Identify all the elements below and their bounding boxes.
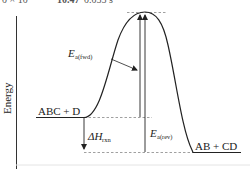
ea-reverse-label: E a(rev) <box>149 127 173 141</box>
svg-text:ΔH: ΔH <box>87 130 103 142</box>
svg-text:rxn: rxn <box>102 136 111 143</box>
reaction-curve <box>36 12 241 153</box>
svg-text:E: E <box>67 47 75 59</box>
reactants-label: ABC + D <box>38 105 80 117</box>
products-label: AB + CD <box>195 140 237 152</box>
energy-diagram: Energy ABC + D AB + CD E a(fwd) E a(rev)… <box>0 0 250 169</box>
svg-text:a(rev): a(rev) <box>157 133 173 141</box>
ea-forward-pointer <box>111 59 137 70</box>
y-axis-label: Energy <box>1 82 13 114</box>
svg-text:E: E <box>149 127 157 139</box>
delta-h-label: ΔH rxn <box>87 130 111 143</box>
svg-text:a(fwd): a(fwd) <box>75 53 92 61</box>
ea-forward-label: E a(fwd) <box>67 47 92 61</box>
